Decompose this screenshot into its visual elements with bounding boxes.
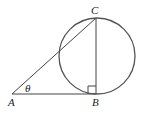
label-B: B	[92, 96, 99, 108]
label-C: C	[91, 4, 99, 16]
label-A: A	[7, 96, 15, 108]
geometry-diagram: C A B θ	[0, 0, 143, 114]
angle-theta-label: θ	[25, 82, 31, 94]
diagram-canvas: C A B θ	[0, 0, 143, 114]
circle	[59, 18, 135, 94]
